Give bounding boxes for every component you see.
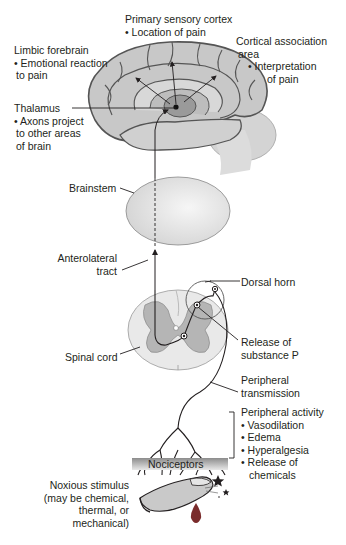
blood-drop-icon: [191, 503, 201, 523]
label-noxious-stimulus: Noxious stimulus (may be chemical, therm…: [30, 479, 129, 529]
label-primary-sensory: Primary sensory cortex • Location of pai…: [125, 13, 232, 38]
label-spinal-cord: Spinal cord: [65, 351, 118, 364]
thalamus-dot: [173, 104, 178, 109]
label-peripheral-activity: Peripheral activity • Vasodilation • Ede…: [241, 406, 324, 481]
label-cortical: Cortical association area • Interpretati…: [236, 35, 327, 85]
label-brainstem: Brainstem: [69, 182, 116, 195]
label-peripheral-transmission: Peripheral transmission: [241, 374, 300, 399]
bracket: [229, 412, 234, 458]
label-dorsal-horn: Dorsal horn: [241, 276, 295, 289]
label-thalamus: Thalamus • Axons project to other areas …: [14, 102, 84, 152]
thalamus: [164, 95, 196, 117]
star-icon: [212, 475, 224, 487]
label-anterolateral: Anterolateral tract: [50, 252, 117, 277]
label-substance-p: Release of substance P: [241, 336, 299, 361]
star-icon-small: [223, 489, 230, 495]
label-nociceptors: Nociceptors: [148, 458, 203, 471]
brainstem-section: [126, 177, 230, 245]
label-limbic: Limbic forebrain • Emotional reaction to…: [14, 44, 108, 82]
finger: [140, 477, 213, 512]
